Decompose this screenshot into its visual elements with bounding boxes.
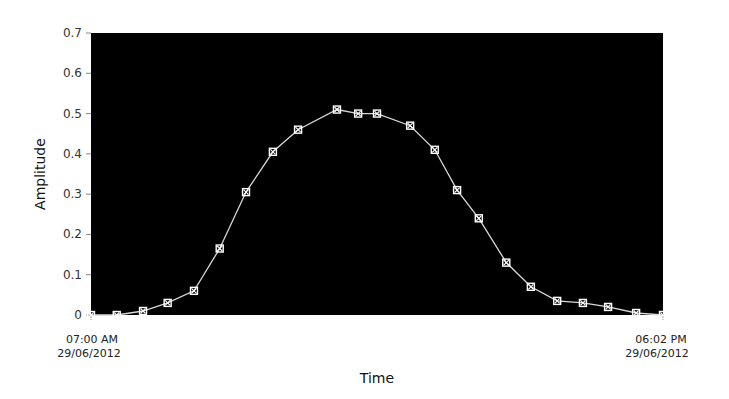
x-start-date-label: 29/06/2012 [57, 347, 120, 360]
plot-area [91, 33, 663, 315]
x-end-time-label: 06:02 PM [635, 333, 686, 346]
y-tick-label: 0 [74, 308, 82, 322]
y-tick-label: 0.1 [63, 268, 82, 282]
y-tick-label: 0.4 [63, 147, 82, 161]
y-axis: 00.10.20.30.40.50.60.7 [63, 26, 91, 322]
y-tick-label: 0.5 [63, 107, 82, 121]
amplitude-chart: 00.10.20.30.40.50.60.7 Amplitude Time 07… [0, 0, 729, 399]
y-tick-label: 0.2 [63, 227, 82, 241]
x-axis [91, 315, 663, 320]
x-start-time-label: 07:00 AM [66, 333, 118, 346]
y-tick-label: 0.6 [63, 66, 82, 80]
x-axis-title: Time [359, 370, 394, 386]
y-tick-label: 0.3 [63, 187, 82, 201]
y-tick-label: 0.7 [63, 26, 82, 40]
x-end-date-label: 29/06/2012 [625, 347, 688, 360]
y-axis-title: Amplitude [32, 138, 48, 210]
